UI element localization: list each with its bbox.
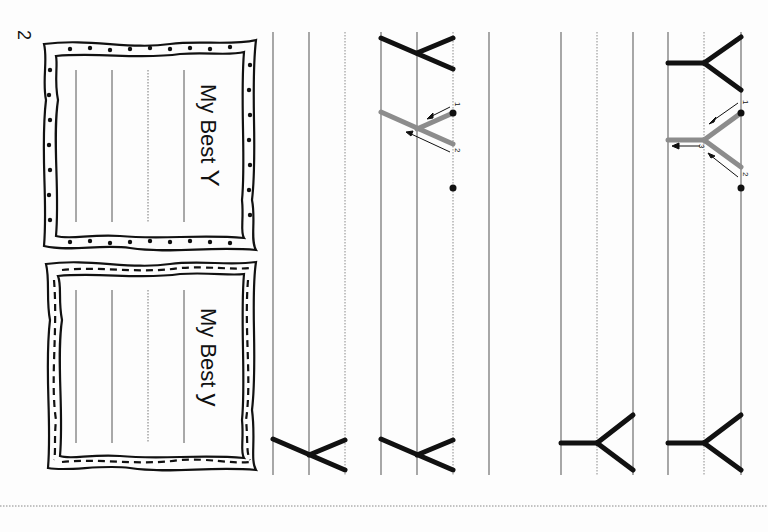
start-dot-icon — [450, 110, 457, 117]
frame-title-text: My Best — [196, 308, 221, 387]
start-dot-icon — [450, 185, 457, 192]
start-dot-icon — [738, 110, 745, 117]
frame2-writing-lines — [76, 290, 184, 443]
frame1-writing-lines — [76, 70, 184, 222]
frame-title-uppercase: My Best Y — [194, 84, 225, 187]
stroke-number-2: 2 — [741, 172, 750, 176]
frame-title-lowercase: My Best y — [194, 308, 225, 407]
worksheet-drawing — [0, 0, 768, 532]
rule-lines — [273, 32, 741, 475]
stroke-number-1-lower: 1 — [453, 102, 462, 106]
direction-arrows-lowercase — [406, 107, 450, 152]
start-dot-icon — [738, 185, 745, 192]
frame-title-letter: Y — [195, 170, 225, 187]
page-number: 2 — [13, 30, 34, 40]
worksheet-page: 2 My Best Y My Best y 1 2 3 1 2 — [0, 0, 768, 532]
stroke-number-3: 3 — [697, 144, 706, 148]
frame-title-letter: y — [195, 394, 225, 407]
stroke-number-2-lower: 2 — [453, 148, 462, 152]
stroke-number-1: 1 — [741, 100, 750, 104]
frame-title-text: My Best — [196, 84, 221, 163]
dotted-midlines — [345, 32, 704, 475]
